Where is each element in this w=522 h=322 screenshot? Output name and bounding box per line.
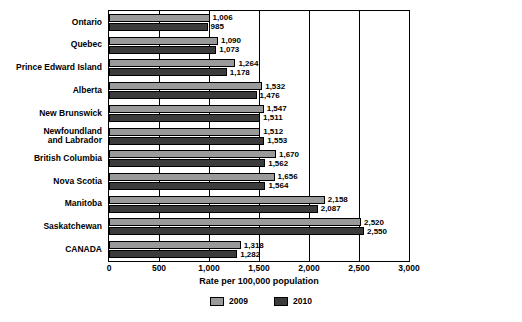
legend: 2009 2010 — [0, 296, 522, 306]
bar-value-label: 985 — [211, 23, 224, 31]
bar-value-label: 2,520 — [364, 219, 384, 227]
category-label: Newfoundland and Labrador — [43, 127, 102, 146]
bar-value-label: 1,512 — [263, 128, 283, 136]
bar-2009 — [109, 218, 361, 226]
category-label: Nova Scotia — [53, 177, 102, 187]
bar-value-label: 1,547 — [267, 105, 287, 113]
category-label: Quebec — [71, 40, 102, 50]
bar-value-label: 2,550 — [367, 228, 387, 236]
legend-label-2009: 2009 — [229, 296, 248, 306]
bar-value-label: 1,178 — [230, 69, 250, 77]
legend-item-2010: 2010 — [274, 296, 312, 306]
x-tick-label: 0 — [107, 263, 112, 273]
chart-container: OntarioQuebecPrince Edward IslandAlberta… — [0, 0, 522, 322]
bar-2010 — [109, 137, 264, 145]
legend-swatch-2009 — [210, 297, 224, 306]
bar-2010 — [109, 23, 208, 31]
bar-2010 — [109, 46, 216, 54]
bar-value-label: 1,264 — [238, 60, 258, 68]
bar-value-label: 1,282 — [240, 251, 260, 259]
bar-2010 — [109, 68, 227, 76]
bar-2010 — [109, 91, 257, 99]
bar-value-label: 1,090 — [221, 37, 241, 45]
category-label: Alberta — [73, 86, 102, 96]
bar-value-label: 1,670 — [279, 151, 299, 159]
bar-value-label: 1,532 — [265, 83, 285, 91]
x-tick-label: 1,500 — [248, 263, 269, 273]
bar-value-label: 1,318 — [244, 242, 264, 250]
bar-value-label: 1,476 — [260, 92, 280, 100]
bar-value-label: 1,073 — [219, 46, 239, 54]
legend-label-2010: 2010 — [293, 296, 312, 306]
bar-2009 — [109, 82, 262, 90]
category-label: CANADA — [65, 245, 102, 255]
bar-2009 — [109, 128, 260, 136]
bar-value-label: 1,564 — [268, 182, 288, 190]
bar-2010 — [109, 227, 364, 235]
bar-2009 — [109, 14, 210, 22]
bar-2010 — [109, 182, 265, 190]
bar-2010 — [109, 114, 260, 122]
x-tick-label: 2,500 — [348, 263, 369, 273]
bar-2009 — [109, 150, 276, 158]
category-axis-labels: OntarioQuebecPrince Edward IslandAlberta… — [0, 10, 106, 262]
bar-2009 — [109, 59, 235, 67]
bar-2010 — [109, 250, 237, 258]
legend-item-2009: 2009 — [210, 296, 248, 306]
bar-2010 — [109, 205, 318, 213]
bar-2009 — [109, 241, 241, 249]
category-label: New Brunswick — [39, 109, 102, 119]
bar-2009 — [109, 105, 264, 113]
bar-value-label: 1,006 — [213, 14, 233, 22]
x-tick-label: 3,000 — [398, 263, 419, 273]
bar-2009 — [109, 196, 325, 204]
bar-value-label: 1,656 — [278, 173, 298, 181]
bar-value-label: 1,562 — [268, 160, 288, 168]
x-tick-label: 1,000 — [198, 263, 219, 273]
category-label: Prince Edward Island — [16, 63, 102, 73]
category-label: Saskatchewan — [43, 222, 102, 232]
bar-value-label: 2,158 — [328, 196, 348, 204]
category-label: British Columbia — [34, 154, 102, 164]
category-label: Manitoba — [65, 199, 102, 209]
legend-swatch-2010 — [274, 297, 288, 306]
bar-value-label: 1,511 — [263, 114, 283, 122]
x-axis-title: Rate per 100,000 population — [108, 276, 410, 286]
x-tick-label: 2,000 — [298, 263, 319, 273]
x-axis-tick-labels: 05001,0001,5002,0002,5003,000 — [108, 263, 410, 277]
bars-layer: 1,0069851,0901,0731,2641,1781,5321,4761,… — [109, 11, 409, 261]
bar-2010 — [109, 159, 265, 167]
bar-2009 — [109, 173, 275, 181]
bar-value-label: 1,553 — [267, 137, 287, 145]
bar-2009 — [109, 37, 218, 45]
category-label: Ontario — [72, 18, 102, 28]
x-tick-label: 500 — [152, 263, 166, 273]
bar-value-label: 2,087 — [321, 205, 341, 213]
